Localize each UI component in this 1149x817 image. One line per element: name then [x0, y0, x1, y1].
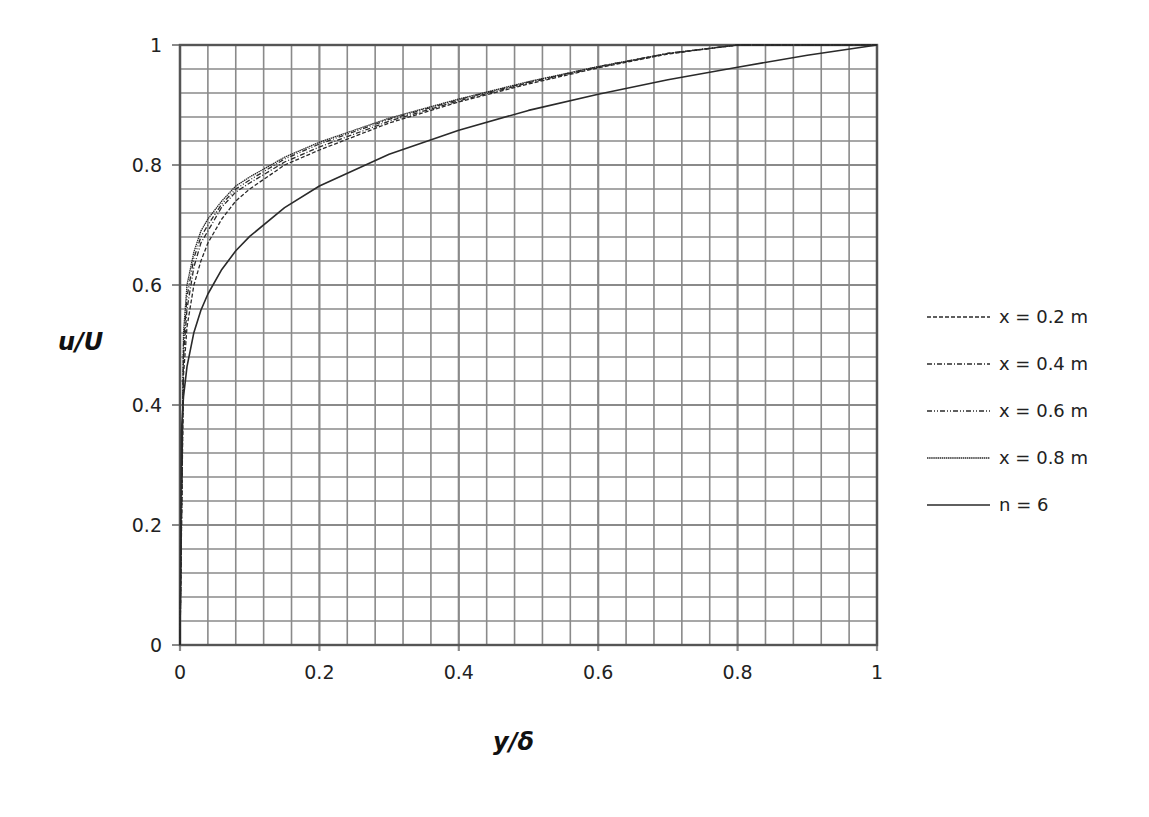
x-tick-label: 1 — [871, 661, 883, 683]
y-tick-label: 0.6 — [132, 274, 162, 296]
legend-item: x = 0.6 m — [927, 400, 1088, 421]
x-tick-label: 0.6 — [583, 661, 613, 683]
grid — [172, 45, 877, 651]
y-axis-title: u/U — [58, 328, 103, 356]
x-tick-label: 0.4 — [444, 661, 474, 683]
legend-label: n = 6 — [999, 494, 1048, 515]
series-line-x-0-4-m — [180, 45, 877, 645]
series-line-x-0-6-m — [180, 45, 877, 645]
legend-item: x = 0.4 m — [927, 353, 1088, 374]
legend-item: x = 0.2 m — [927, 306, 1088, 327]
legend-item: n = 6 — [927, 494, 1048, 515]
y-tick-label: 0.2 — [132, 514, 162, 536]
legend: x = 0.2 mx = 0.4 mx = 0.6 mx = 0.8 mn = … — [927, 306, 1088, 515]
series-line-x-0-8-m — [180, 45, 877, 645]
legend-label: x = 0.2 m — [999, 306, 1088, 327]
legend-item: x = 0.8 m — [927, 447, 1088, 468]
plot-frame — [180, 45, 877, 645]
boundary-layer-velocity-chart: 00.20.40.60.8100.20.40.60.81 u/U y/δ x =… — [0, 0, 1149, 817]
legend-label: x = 0.4 m — [999, 353, 1088, 374]
tick-labels: 00.20.40.60.8100.20.40.60.81 — [132, 34, 883, 683]
y-tick-label: 0.8 — [132, 154, 162, 176]
x-axis-title: y/δ — [493, 728, 534, 756]
y-tick-label: 1 — [150, 34, 162, 56]
x-tick-label: 0 — [174, 661, 186, 683]
legend-label: x = 0.8 m — [999, 447, 1088, 468]
axes — [180, 45, 877, 645]
series-line-x-0-2-m — [180, 45, 877, 645]
x-tick-label: 0.8 — [722, 661, 752, 683]
x-tick-label: 0.2 — [304, 661, 334, 683]
y-tick-label: 0 — [150, 634, 162, 656]
y-tick-label: 0.4 — [132, 394, 162, 416]
series-line-n-6 — [180, 45, 877, 645]
series — [180, 45, 877, 645]
legend-label: x = 0.6 m — [999, 400, 1088, 421]
